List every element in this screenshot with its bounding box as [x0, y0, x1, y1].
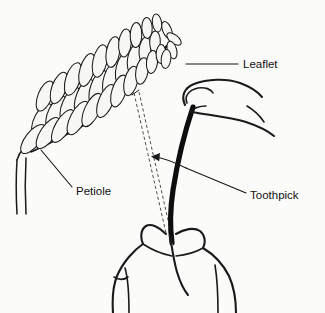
leaflet-label: Leaflet: [243, 58, 278, 70]
leaflet: [141, 17, 152, 38]
callout-leaflet: Leaflet: [186, 58, 278, 70]
stem-right-edge: [25, 158, 26, 214]
upper-hand-group: [183, 80, 274, 136]
upper-hand-lower-outline: [192, 112, 274, 136]
motion-path-group: [132, 90, 171, 233]
motion-dashed-line-right: [139, 92, 171, 233]
upper-finger-outline: [183, 80, 262, 105]
toothpick-label: Toothpick: [250, 189, 299, 201]
plant-stem-group: [16, 145, 31, 214]
lower-thumb: [176, 229, 236, 313]
leaflet: [130, 22, 142, 47]
toothpick: [171, 107, 193, 243]
petiole-label: Petiole: [76, 185, 111, 197]
botanical-diagram-svg: Leaflet Petiole Toothpick: [0, 0, 325, 313]
leaflet: [151, 13, 163, 32]
callout-petiole: Petiole: [41, 150, 111, 197]
stem-left-edge: [16, 160, 17, 214]
leaflet-tip-cluster: [160, 20, 184, 69]
motion-arrow-head: [151, 153, 160, 161]
toothpick-leader-line: [186, 168, 246, 193]
motion-dashed-line-left: [134, 93, 166, 233]
upper-thumb-edge: [247, 106, 264, 122]
lower-hand-group: [113, 225, 236, 313]
petiole-leader-line: [41, 150, 72, 187]
figure-canvas: Leaflet Petiole Toothpick: [0, 0, 325, 313]
lower-index-finger: [113, 225, 166, 313]
